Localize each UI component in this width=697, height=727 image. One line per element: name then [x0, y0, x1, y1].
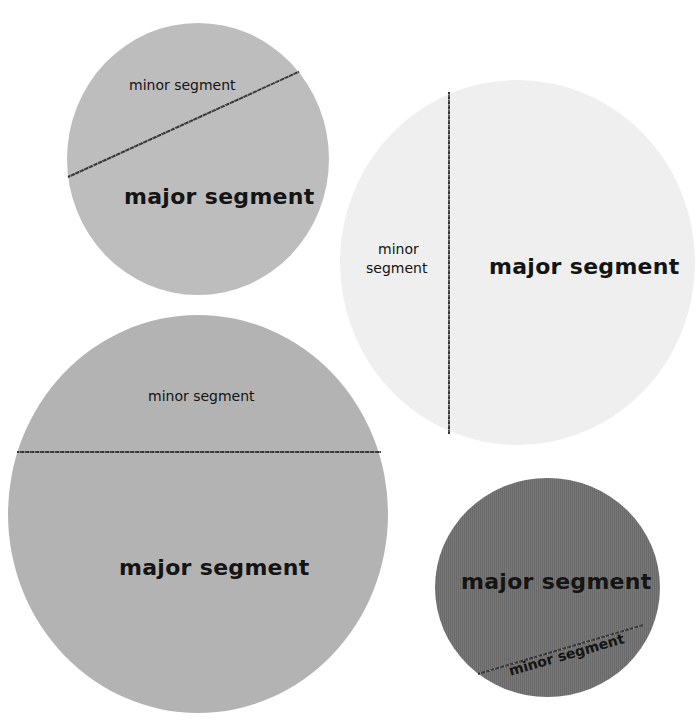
minor-segment-label-top-right-line2: segment — [366, 260, 427, 276]
chord-bottom-left — [17, 451, 381, 453]
chord-top-right — [448, 92, 450, 434]
minor-segment-label-top-left: minor segment — [129, 77, 236, 93]
major-segment-label-top-left: major segment — [124, 184, 315, 209]
major-segment-label-bottom-right: major segment — [461, 569, 652, 594]
minor-segment-label-bottom-left: minor segment — [148, 388, 255, 404]
major-segment-label-bottom-left: major segment — [119, 555, 310, 580]
major-segment-label-top-right: major segment — [489, 254, 680, 279]
minor-segment-label-top-right-line1: minor — [378, 241, 419, 257]
circle-bottom-left — [8, 315, 388, 713]
